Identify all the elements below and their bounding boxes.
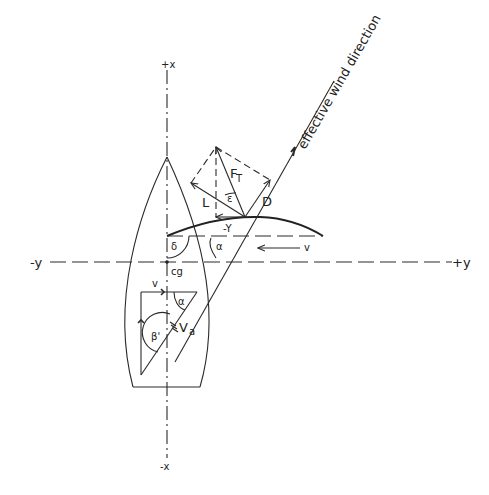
cg-label: cg	[171, 266, 183, 277]
beta-label: β'	[151, 331, 160, 342]
plus-y-label: +y	[452, 255, 471, 270]
wind-arrow-icon	[291, 147, 295, 156]
drag-label: D	[262, 194, 272, 209]
alpha-sail-label: α	[216, 241, 223, 252]
sail-curve	[167, 217, 323, 236]
apparent-wind-subscript: a	[189, 326, 195, 337]
boat-speed-label: v	[304, 242, 310, 253]
plus-x-label: +x	[161, 59, 175, 70]
minus-x-label: -x	[160, 461, 170, 472]
wind-direction: effective wind direction	[175, 12, 384, 362]
total-force-subscript: T	[235, 173, 243, 184]
lift-label: L	[202, 195, 210, 210]
center-of-gravity-dot	[165, 260, 169, 264]
minus-y-label: -y	[30, 255, 42, 270]
side-force-label: -Y	[223, 223, 232, 234]
epsilon-label: ε	[227, 193, 232, 204]
delta-label: δ	[171, 241, 177, 252]
boat-speed-side-label: v	[152, 278, 158, 289]
apparent-wind-label: V	[179, 320, 188, 335]
y-axis: -y +y	[30, 255, 471, 270]
sailing-force-diagram: +x -x -y +y effective wind direction	[0, 0, 489, 495]
wind-label: effective wind direction	[295, 12, 384, 152]
alpha-hull-label: α	[178, 296, 185, 307]
